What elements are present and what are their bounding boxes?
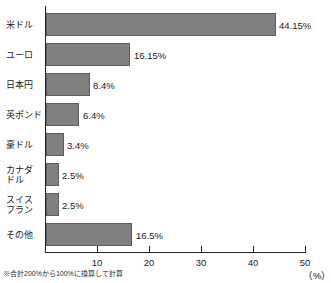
category-label: ユーロ <box>6 50 50 60</box>
x-axis-tick <box>97 246 98 252</box>
bar-row: 日本円 8.4% <box>0 70 331 100</box>
bar-segment <box>46 133 64 156</box>
x-axis-tick-label: 10 <box>92 257 103 268</box>
x-axis-tick-label: 30 <box>196 257 207 268</box>
bar-chart: 米ドル 44.15% ユーロ 16.15% 日本円 8.4% 英ポンド 6.4% <box>0 0 331 283</box>
bar-row: その他 16.5% <box>0 220 331 250</box>
category-label: 米ドル <box>6 20 50 30</box>
bar-row: スイス フラン 2.5% <box>0 190 331 220</box>
plot-area: 米ドル 44.15% ユーロ 16.15% 日本円 8.4% 英ポンド 6.4% <box>0 0 331 283</box>
x-axis-tick <box>149 246 150 252</box>
bar-value-label: 2.5% <box>62 200 84 211</box>
x-axis-tick-label: 50 <box>300 257 311 268</box>
bar-value-label: 44.15% <box>279 20 311 31</box>
bar-value-label: 8.4% <box>93 80 115 91</box>
x-axis-tick-label: 40 <box>248 257 259 268</box>
category-label: スイス フラン <box>6 195 50 215</box>
x-axis-tick <box>305 246 306 252</box>
category-label: 豪ドル <box>6 140 50 150</box>
bar-row: カナダ ドル 2.5% <box>0 160 331 190</box>
category-label: 英ポンド <box>6 110 50 120</box>
bar-row: 米ドル 44.15% <box>0 10 331 40</box>
x-axis-tick <box>253 246 254 252</box>
bar-row: 英ポンド 6.4% <box>0 100 331 130</box>
bar-segment <box>46 223 132 246</box>
bar-value-label: 6.4% <box>83 110 105 121</box>
bar-value-label: 16.15% <box>134 50 166 61</box>
bar-segment <box>46 103 79 126</box>
x-axis-tick <box>201 246 202 252</box>
bar-segment <box>46 193 59 216</box>
bar-segment <box>46 43 130 66</box>
category-label: カナダ ドル <box>6 165 50 185</box>
bar-value-label: 16.5% <box>136 230 163 241</box>
x-axis-line <box>45 252 306 253</box>
bar-segment <box>46 13 276 36</box>
category-label: 日本円 <box>6 80 50 90</box>
category-label: その他 <box>6 230 50 240</box>
x-axis-tick-label: 20 <box>144 257 155 268</box>
bar-value-label: 3.4% <box>67 140 89 151</box>
chart-footnote: ※合計200%から100%に換算して計算 <box>3 269 123 278</box>
bar-value-label: 2.5% <box>62 170 84 181</box>
bar-row: 豪ドル 3.4% <box>0 130 331 160</box>
bar-segment <box>46 73 90 96</box>
x-axis-unit-label: （%） <box>303 268 331 282</box>
bar-rows: 米ドル 44.15% ユーロ 16.15% 日本円 8.4% 英ポンド 6.4% <box>0 10 331 250</box>
bar-row: ユーロ 16.15% <box>0 40 331 70</box>
bar-segment <box>46 163 59 186</box>
